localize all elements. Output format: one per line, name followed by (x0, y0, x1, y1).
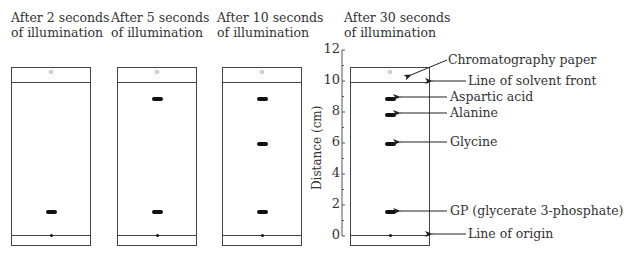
label-alanine: Alanine (450, 106, 498, 120)
label-glycine: Glycine (450, 135, 498, 149)
label-aspartic-acid: Aspartic acid (450, 90, 533, 104)
arrow-paper (411, 60, 447, 75)
label-chromatography-paper: Chromatography paper (448, 53, 596, 67)
label-line-of-origin: Line of origin (468, 227, 553, 241)
label-gp: GP (glycerate 3-phosphate) (450, 204, 624, 218)
label-solvent-front: Line of solvent front (468, 74, 597, 88)
